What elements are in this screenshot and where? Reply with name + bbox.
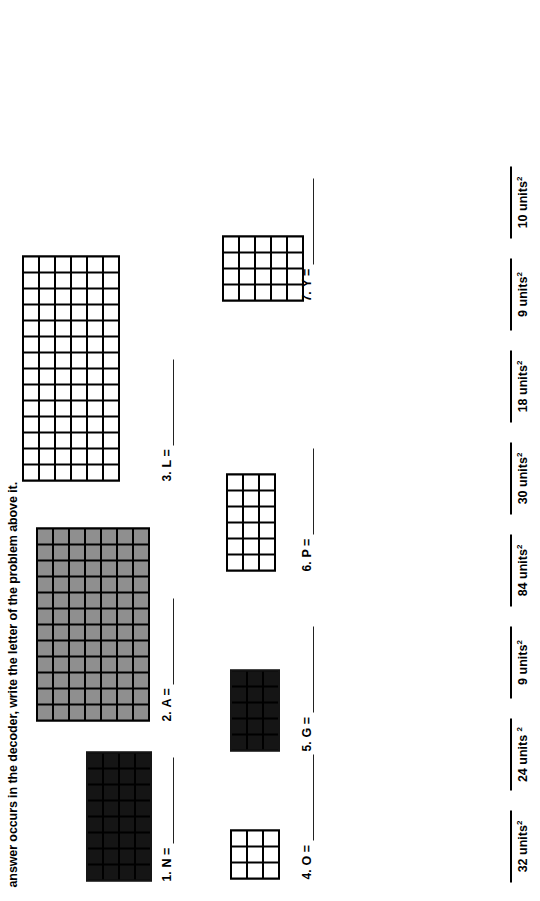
decoder-answer-blank[interactable]: [510, 350, 512, 422]
grid-cell: [54, 545, 68, 559]
problem-4-letter: O =: [300, 844, 314, 865]
grid-cell: [248, 671, 262, 685]
grid-cell: [264, 735, 278, 749]
decoder-item[interactable]: 30 units2: [510, 441, 530, 515]
grid-cell: [104, 353, 118, 367]
grid-cell: [70, 545, 84, 559]
grid-cell: [102, 673, 116, 687]
problem-5-number: 5.: [300, 741, 314, 751]
problem-1-number: 1.: [160, 871, 174, 881]
grid-cell: [72, 273, 86, 287]
grid-cell: [38, 593, 52, 607]
grid-cell: [232, 719, 246, 733]
grid-cell: [54, 705, 68, 719]
grid-cell: [134, 609, 148, 623]
grid-cell: [264, 703, 278, 717]
grid-cell: [24, 433, 38, 447]
problem-3-answer-row: 3. L =: [160, 359, 174, 481]
grid-cell: [240, 253, 254, 267]
decoder-answer-blank[interactable]: [510, 626, 512, 698]
grid-cell: [56, 337, 70, 351]
grid-cell: [24, 401, 38, 415]
grid-cell: [104, 801, 118, 815]
decoder-item[interactable]: 84 units2: [510, 533, 530, 607]
decoder-answer-blank[interactable]: [510, 810, 512, 882]
decoder-exponent: 2: [515, 544, 524, 548]
grid-cell: [244, 475, 258, 489]
grid-cell: [86, 705, 100, 719]
grid-cell: [260, 491, 274, 505]
grid-cell: [256, 269, 270, 283]
grid-cell: [102, 705, 116, 719]
decoder-answer-blank[interactable]: [510, 442, 512, 514]
problem-1-answer-blank[interactable]: [160, 757, 174, 843]
decoder-item[interactable]: 10 units2: [510, 165, 530, 239]
decoder-answer-blank[interactable]: [510, 718, 512, 790]
decoder-item[interactable]: 32 units2: [510, 809, 530, 883]
grid-cell: [244, 507, 258, 521]
problem-6-answer-blank[interactable]: [300, 448, 314, 534]
instructions-text: answer occurs in the decoder, write the …: [6, 482, 20, 888]
grid-cell: [260, 539, 274, 553]
grid-cell: [86, 577, 100, 591]
problem-1-letter: N =: [160, 847, 174, 867]
decoder-answer-blank[interactable]: [510, 534, 512, 606]
grid-cell: [88, 817, 102, 831]
decoder-value-label: 84 units2: [515, 544, 530, 596]
grid-cell: [24, 449, 38, 463]
grid-cell: [102, 545, 116, 559]
grid-cell: [54, 641, 68, 655]
decoder-item[interactable]: 9 units2: [510, 625, 530, 699]
grid-cell: [104, 289, 118, 303]
grid-cell: [256, 285, 270, 299]
grid-cell: [104, 417, 118, 431]
grid-cell: [38, 689, 52, 703]
grid-cell: [24, 257, 38, 271]
grid-cell: [86, 641, 100, 655]
grid-cell: [54, 657, 68, 671]
grid-cell: [244, 539, 258, 553]
problem-3-number: 3.: [160, 471, 174, 481]
grid-cell: [24, 289, 38, 303]
grid-cell: [86, 625, 100, 639]
grid-cell: [136, 801, 150, 815]
grid-cell: [228, 523, 242, 537]
decoder-item[interactable]: 9 units2: [510, 257, 530, 331]
grid-cell: [88, 849, 102, 863]
problem-4-answer-blank[interactable]: [300, 754, 314, 840]
grid-cell: [104, 321, 118, 335]
decoder-item[interactable]: 18 units2: [510, 349, 530, 423]
grid-cell: [40, 257, 54, 271]
problem-4-grid: [230, 829, 280, 879]
grid-cell: [256, 253, 270, 267]
grid-cell: [240, 269, 254, 283]
problem-3-answer-blank[interactable]: [160, 359, 174, 445]
grid-cell: [120, 801, 134, 815]
grid-cell: [86, 609, 100, 623]
grid-cell: [86, 529, 100, 543]
decoder-answer-blank[interactable]: [510, 258, 512, 330]
problem-5: [230, 669, 280, 751]
grid-cell: [102, 689, 116, 703]
problem-2-answer-blank[interactable]: [160, 598, 174, 684]
grid-cell: [256, 237, 270, 251]
grid-cell: [24, 417, 38, 431]
decoder-item[interactable]: 24 units 2: [510, 717, 530, 791]
grid-cell: [54, 593, 68, 607]
problem-5-answer-blank[interactable]: [300, 626, 314, 712]
grid-cell: [88, 417, 102, 431]
grid-cell: [104, 257, 118, 271]
grid-cell: [88, 353, 102, 367]
problem-3: [22, 255, 120, 481]
grid-cell: [136, 817, 150, 831]
grid-cell: [120, 817, 134, 831]
decoder-answer-blank[interactable]: [510, 166, 512, 238]
decoder-value-label: 24 units 2: [515, 726, 530, 781]
grid-cell: [120, 833, 134, 847]
grid-cell: [260, 475, 274, 489]
grid-cell: [228, 555, 242, 569]
problem-6: [226, 473, 276, 571]
grid-cell: [40, 305, 54, 319]
problem-7-answer-blank[interactable]: [300, 178, 314, 264]
grid-cell: [38, 657, 52, 671]
